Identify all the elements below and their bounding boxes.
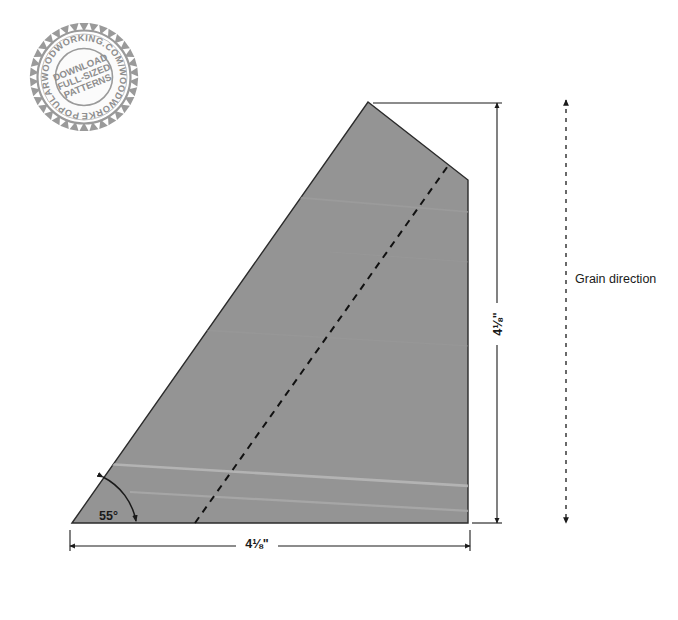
workpiece-shape-group	[72, 102, 470, 523]
width-dimension-label: 4⅛"	[245, 537, 268, 551]
workpiece-wedge	[72, 102, 468, 523]
pattern-diagram: 55° 4⅛" 4⅛" Grain direction	[0, 0, 678, 620]
height-dimension-label: 4⅛"	[491, 312, 505, 335]
download-patterns-stamp[interactable]: POPULARWOODWORKING.COM/WOODWORKERSKITCHE…	[0, 0, 138, 131]
width-dimension-group: 4⅛"	[70, 530, 470, 552]
diagram-canvas: 55° 4⅛" 4⅛" Grain direction	[0, 0, 678, 620]
grain-direction-group: Grain direction	[566, 100, 656, 523]
angle-label: 55°	[99, 509, 118, 523]
grain-direction-label: Grain direction	[575, 272, 656, 286]
